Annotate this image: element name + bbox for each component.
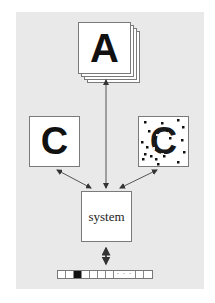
tape-cell (58, 271, 66, 278)
tape-cell (106, 271, 114, 278)
arrow-noisy-system (120, 170, 157, 188)
tape-cell (66, 271, 74, 278)
tape-cell (98, 271, 106, 278)
tape-ellipsis: · · · (114, 271, 136, 278)
tape-cell (90, 271, 98, 278)
tape-cell (136, 271, 144, 278)
arrows-layer (0, 0, 215, 303)
tape-cell (144, 271, 152, 278)
arrow-clean-system (57, 170, 91, 188)
tape-cell-filled (74, 271, 82, 278)
tape-cell (82, 271, 90, 278)
output-tape: · · · (57, 270, 153, 279)
